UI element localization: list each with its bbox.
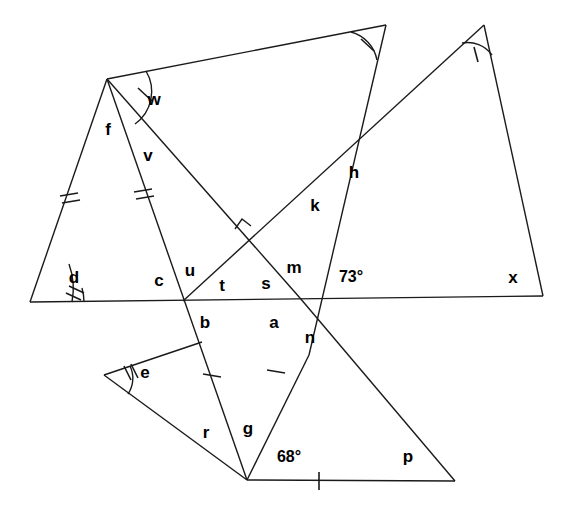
angle-value-68: 68° [277, 449, 301, 465]
angle-label-g: g [243, 420, 253, 437]
segment-p-base [247, 480, 455, 481]
arc-top-center [351, 32, 377, 60]
angle-label-t: t [219, 277, 225, 294]
angle-label-u: u [185, 262, 195, 279]
tick-v-1 [134, 189, 152, 192]
tick-left-f-side-group [60, 193, 80, 203]
angle-label-n: n [305, 329, 315, 346]
segment-right-apex-to-left-cross [183, 25, 484, 301]
angle-label-x: x [508, 269, 517, 286]
angle-label-h: h [349, 164, 359, 181]
angle-label-k: k [310, 197, 319, 214]
segment-p-diagonal [300, 298, 455, 481]
angle-label-s: s [261, 275, 270, 292]
angle-label-m: m [286, 259, 301, 276]
arc-right-apex-group [462, 42, 492, 62]
segment-r-side [104, 375, 247, 480]
arc-right-apex-tick-1 [474, 47, 478, 62]
segments-group [30, 25, 543, 481]
segment-x-side [484, 25, 543, 296]
tick-v-2 [136, 196, 154, 199]
tick-r-1 [203, 374, 221, 377]
angle-label-w: w [147, 91, 160, 108]
diagram-canvas: w f v d c u t b s m a n k h x e r g p 73… [0, 0, 572, 514]
angle-label-p: p [403, 448, 413, 465]
segment-top-ridge [107, 25, 386, 79]
segment-w-diagonal [107, 79, 300, 298]
segment-long-horizontal-baseline [30, 296, 543, 302]
angle-label-r: r [203, 424, 210, 441]
angle-label-f: f [105, 121, 111, 138]
angle-label-a: a [269, 314, 278, 331]
angle-label-v: v [143, 147, 152, 164]
segment-e-upper [104, 342, 202, 375]
arc-e-tick-1 [124, 366, 131, 380]
tick-f-1 [60, 193, 78, 196]
arc-d-outer [82, 288, 84, 302]
tick-v-upper-group [134, 189, 154, 199]
tick-g-1 [267, 370, 285, 373]
angle-label-d: d [69, 269, 79, 286]
angle-label-e: e [140, 364, 149, 381]
arc-e-group [124, 364, 138, 394]
angle-label-b: b [200, 314, 210, 331]
angle-label-c: c [154, 272, 163, 289]
angle-value-73: 73° [339, 269, 363, 285]
segment-top-center-down [309, 25, 386, 355]
arc-top-center-group [351, 32, 377, 60]
segment-v-to-bottom-apex [107, 79, 247, 480]
